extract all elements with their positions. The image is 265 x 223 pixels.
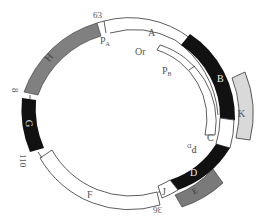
segment-C [216, 118, 234, 148]
segment-H [24, 23, 101, 95]
label-C: C [207, 132, 214, 143]
H-connector [97, 21, 104, 23]
marker-110: 110 [18, 154, 28, 168]
segment-A-outer [104, 18, 190, 38]
label-PD: PD [186, 143, 197, 155]
marker-110-tick [38, 152, 42, 158]
label-J: J [162, 186, 166, 197]
label-Or: Or [135, 46, 146, 57]
genome-map: 63 8 110 36 A Or PA PB PD B K C D E J F … [0, 0, 265, 223]
label-F: F [87, 189, 93, 200]
label-B: B [217, 73, 224, 84]
genome-map-svg: 63 8 110 36 A Or PA PB PD B K C D E J F … [0, 0, 265, 223]
label-A: A [148, 27, 156, 38]
marker-8: 8 [10, 88, 20, 93]
label-D: D [190, 167, 197, 178]
segment-A-inner [110, 30, 175, 40]
label-PA: PA [100, 35, 111, 47]
segment-F [40, 150, 160, 210]
segment-K [232, 72, 253, 140]
marker-63: 63 [93, 10, 103, 20]
marker-63-tick [104, 21, 106, 33]
label-PB: PB [162, 65, 172, 77]
label-K: K [238, 108, 246, 119]
marker-36: 36 [153, 205, 163, 215]
